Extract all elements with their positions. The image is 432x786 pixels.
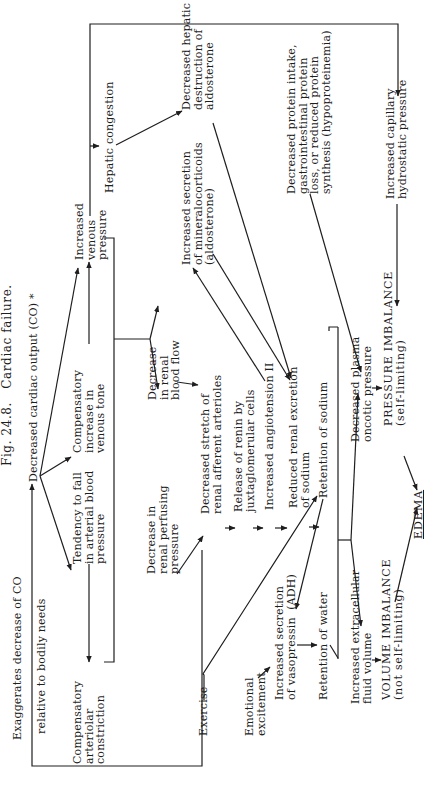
node-relative-bodily-needs: relative to bodily needs — [36, 598, 48, 734]
node-edema: EDEMA — [413, 490, 425, 539]
node-decreased-hepatic-destruction: Decreased hepatic destruction of aldoste… — [181, 3, 216, 110]
node-release-renin: Release of renin by juxtaglomerular cell… — [233, 389, 256, 512]
node-compensatory-venous-tone: Compensatory increase in venous tone — [72, 370, 107, 453]
node-reduced-renal-excretion: Reduced renal excretion of sodium — [288, 367, 311, 508]
node-retention-sodium: Retention of sodium — [318, 382, 330, 498]
node-pressure-imbalance: PRESSURE IMBALANCE (self-limiting) — [383, 271, 406, 426]
node-exaggerates-decrease: Exaggerates decrease of CO — [12, 576, 24, 740]
node-hepatic-congestion: Hepatic congestion — [104, 81, 116, 193]
node-emotional-excitement: Emotional excitement — [244, 672, 267, 736]
node-increased-capillary-pressure: Increased capillary hydrostatic pressure — [385, 80, 408, 199]
node-increased-venous-pressure: Increased venous pressure — [74, 203, 109, 260]
node-decreased-plasma-oncotic: Decreased plasma oncotic pressure — [350, 337, 373, 442]
node-increased-mineralocorticoids: Increased secretion of mineralocorticoid… — [181, 142, 216, 265]
figure-title: Fig. 24.8. Cardiac failure. — [2, 284, 14, 466]
node-increased-vasopressin: Increased secretion of vasopressin (ADH) — [274, 574, 297, 700]
node-volume-imbalance: VOLUME IMBALANCE (not self-limiting) — [381, 559, 404, 700]
node-decreased-protein-intake: Decreased protein intake, gastrointestin… — [286, 30, 332, 194]
node-retention-water: Retention of water — [318, 592, 330, 700]
node-exercise: Exercise — [198, 687, 210, 736]
node-decrease-renal-blood-flow: Decrease in renal blood flow — [147, 340, 182, 400]
node-increased-angiotensin: Increased angiotension II — [264, 362, 276, 510]
node-tendency-fall-bp: Tendency to fall in arterial blood press… — [72, 471, 107, 564]
node-compensatory-arteriolar: Compensatory arteriolar constriction — [72, 681, 107, 764]
cardiac-failure-flowchart: Fig. 24.8. Cardiac failure. Decreased ca… — [0, 0, 432, 786]
node-decreased-cardiac-output: Decreased cardiac output (CO) * — [28, 293, 40, 482]
node-decrease-renal-perfusing: Decrease in renal perfusing pressure — [146, 485, 181, 574]
node-increased-ecf-volume: Increased extracellular fluid volume — [350, 570, 373, 704]
node-decreased-stretch: Decreased stretch of renal afferent arte… — [200, 375, 223, 514]
